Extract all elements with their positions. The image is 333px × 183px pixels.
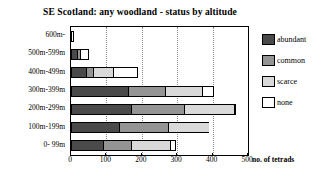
bar-segment-scarce[interactable] <box>93 67 114 78</box>
y-axis-label: 200m-299m <box>0 104 65 112</box>
bar-row[interactable] <box>71 86 214 97</box>
bar-segment-common[interactable] <box>103 140 131 151</box>
x-axis-tick-label: 400 <box>206 155 217 164</box>
bar-segment-none[interactable] <box>113 67 138 78</box>
bar-row[interactable] <box>71 122 209 133</box>
x-axis-ticks: 0100200300400500 <box>70 155 248 167</box>
x-axis-tick-label: 200 <box>135 155 146 164</box>
y-axis-label: 400m-499m <box>0 68 65 76</box>
x-axis-tick-label: 100 <box>100 155 111 164</box>
bar-segment-scarce[interactable] <box>131 140 170 151</box>
x-axis-tick-mark <box>105 153 106 156</box>
bar-segment-none[interactable] <box>234 104 236 115</box>
legend-item-abundant[interactable]: abundant <box>262 33 332 45</box>
bar-segment-abundant[interactable] <box>71 104 131 115</box>
x-axis-tick-mark <box>70 153 71 156</box>
bar-segment-none[interactable] <box>80 49 88 60</box>
x-axis-tick-mark <box>212 153 213 156</box>
legend-swatch-abundant <box>262 34 275 45</box>
chart-title: SE Scotland: any woodland - status by al… <box>0 7 280 17</box>
y-axis-label: 300m-399m <box>0 86 65 94</box>
bar-segment-none[interactable] <box>170 140 176 151</box>
bar-segment-common[interactable] <box>128 86 165 97</box>
legend-swatch-scarce <box>262 76 275 87</box>
bar-segment-scarce[interactable] <box>165 86 202 97</box>
bar-segment-abundant[interactable] <box>71 122 119 133</box>
bar-segment-scarce[interactable] <box>184 104 234 115</box>
bar-segment-none[interactable] <box>202 86 214 97</box>
bar-segment-abundant[interactable] <box>71 67 86 78</box>
plot-area <box>70 26 249 156</box>
y-axis-label: 500m-599m <box>0 49 65 57</box>
y-axis-label: 0- 99m <box>0 141 65 149</box>
bar-row[interactable] <box>71 67 138 78</box>
chart-container: SE Scotland: any woodland - status by al… <box>0 0 333 183</box>
legend-swatch-common <box>262 55 275 66</box>
x-axis-tick-label: 300 <box>171 155 182 164</box>
x-axis-tick-mark <box>141 153 142 156</box>
y-axis-label: 100m-199m <box>0 123 65 131</box>
legend-label: common <box>277 56 305 65</box>
bar-row[interactable] <box>71 49 89 60</box>
x-axis-title: no. of tetrads <box>252 155 294 164</box>
bar-segment-common[interactable] <box>86 67 93 78</box>
x-axis-tick-label: 0 <box>68 155 72 164</box>
bar-row[interactable] <box>71 140 176 151</box>
chart-legend: abundantcommonscarcenone <box>262 33 332 117</box>
y-axis-labels: 0- 99m100m-199m200m-299m300m-399m400m-49… <box>0 26 67 154</box>
legend-item-none[interactable]: none <box>262 96 332 108</box>
legend-label: none <box>277 98 293 107</box>
bar-segment-common[interactable] <box>131 104 184 115</box>
legend-item-common[interactable]: common <box>262 54 332 66</box>
x-axis-tick-mark <box>247 153 248 156</box>
y-axis-label: 600m- <box>0 31 65 39</box>
legend-label: scarce <box>277 77 297 86</box>
bar-segment-none[interactable] <box>71 31 74 42</box>
x-axis-tick-mark <box>176 153 177 156</box>
legend-item-scarce[interactable]: scarce <box>262 75 332 87</box>
legend-label: abundant <box>277 35 306 44</box>
bar-row[interactable] <box>71 104 236 115</box>
bar-segment-scarce[interactable] <box>168 122 209 133</box>
bar-row[interactable] <box>71 31 74 42</box>
bar-segment-abundant[interactable] <box>71 140 103 151</box>
legend-swatch-none <box>262 97 275 108</box>
plot-inner <box>71 27 248 155</box>
x-axis-tick-label: 500 <box>241 155 252 164</box>
bar-segment-abundant[interactable] <box>71 86 128 97</box>
bar-segment-common[interactable] <box>119 122 169 133</box>
